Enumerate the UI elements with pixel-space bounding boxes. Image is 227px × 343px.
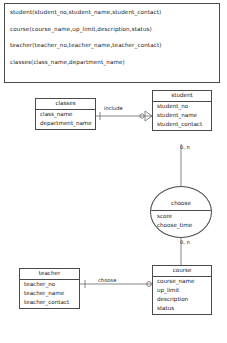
attribute-course-name: course_name [157, 279, 211, 285]
schema-relation-teacher: teacher(teacher_no,teacher_name,teacher_… [10, 43, 214, 49]
cardinality-label-student-choose: 0, n [180, 145, 190, 150]
entity-teacher-attributes: teacher_no teacher_name teacher_contact [20, 280, 79, 308]
attribute-score: score [157, 214, 211, 220]
edge-include-crowsfoot-upper [145, 111, 152, 116]
edge-label-choose: choose [98, 278, 116, 283]
attribute-class-name: class_name [40, 112, 95, 118]
attribute-student-name: student_name [157, 113, 211, 119]
attribute-status: status [157, 306, 211, 312]
cardinality-label-choose-course: 0, n [180, 240, 190, 245]
entity-course-title: course [153, 266, 211, 277]
attribute-teacher-name: teacher_name [24, 291, 79, 297]
edge-include-crowsfoot-lower [145, 116, 152, 121]
relationship-choose-attributes: score choose_time [151, 211, 211, 229]
entity-course[interactable]: course course_name up_limit description … [152, 265, 212, 315]
schema-definition-panel: student(student_no,student_name,student_… [4, 3, 220, 83]
attribute-student-no: student_no [157, 104, 211, 110]
attribute-choose-time: choose_time [157, 223, 211, 229]
relationship-choose[interactable]: choose score choose_time [150, 186, 212, 238]
entity-student-title: student [153, 91, 211, 102]
attribute-teacher-contact: teacher_contact [24, 300, 79, 306]
schema-relation-student: student(student_no,student_name,student_… [10, 10, 214, 16]
attribute-description: description [157, 297, 211, 303]
entity-teacher-title: teacher [20, 269, 79, 280]
er-diagram-canvas: classes class_name department_name stude… [0, 88, 227, 343]
entity-course-attributes: course_name up_limit description status [153, 277, 211, 314]
schema-relation-course: course(course_name,up_limit,description,… [10, 27, 214, 33]
entity-teacher[interactable]: teacher teacher_no teacher_name teacher_… [19, 268, 80, 309]
entity-student-attributes: student_no student_name student_contact [153, 102, 211, 130]
attribute-department-name: department_name [40, 121, 95, 127]
schema-relation-classes: classes(class_name,department_name) [10, 60, 214, 66]
attribute-up-limit: up_limit [157, 288, 211, 294]
entity-classes[interactable]: classes class_name department_name [35, 98, 96, 130]
entity-classes-title: classes [36, 99, 95, 110]
attribute-teacher-no: teacher_no [24, 282, 79, 288]
entity-student[interactable]: student student_no student_name student_… [152, 90, 212, 131]
attribute-student-contact: student_contact [157, 122, 211, 128]
edge-label-include: include [104, 106, 123, 111]
entity-classes-attributes: class_name department_name [36, 110, 95, 129]
